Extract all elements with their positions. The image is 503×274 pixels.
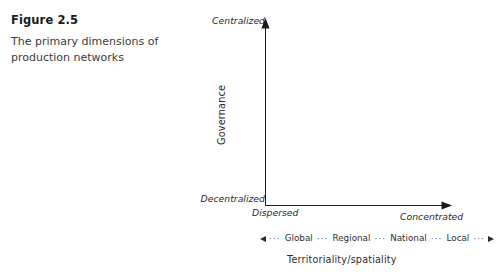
y-axis-top-label: Centralized xyxy=(212,15,265,26)
scale-dots: ··· xyxy=(268,234,282,244)
y-axis-bottom-label: Decentralized xyxy=(201,193,265,204)
diagram-canvas: Centralized Decentralized Dispersed Conc… xyxy=(0,0,503,274)
scale-dots: ··· xyxy=(316,234,330,244)
y-axis-title: Governance xyxy=(216,85,227,145)
left-arrowhead-icon xyxy=(260,236,266,242)
scale-dots: ··· xyxy=(373,234,387,244)
scale-item-local: Local xyxy=(444,233,473,244)
x-axis-right-label: Concentrated xyxy=(400,211,463,222)
scale-dots: ··· xyxy=(430,234,444,244)
scale-item-global: Global xyxy=(282,233,316,244)
x-axis-arrowhead xyxy=(442,201,453,209)
scale-item-national: National xyxy=(387,233,430,244)
right-arrowhead-icon xyxy=(488,236,494,242)
scale-item-regional: Regional xyxy=(329,233,373,244)
scale-dots: ··· xyxy=(472,234,486,244)
territoriality-scale: ··· Global ··· Regional ··· National ···… xyxy=(258,233,496,244)
x-axis-title: Territoriality/spatiality xyxy=(287,254,397,265)
x-axis-left-label: Dispersed xyxy=(252,207,299,218)
